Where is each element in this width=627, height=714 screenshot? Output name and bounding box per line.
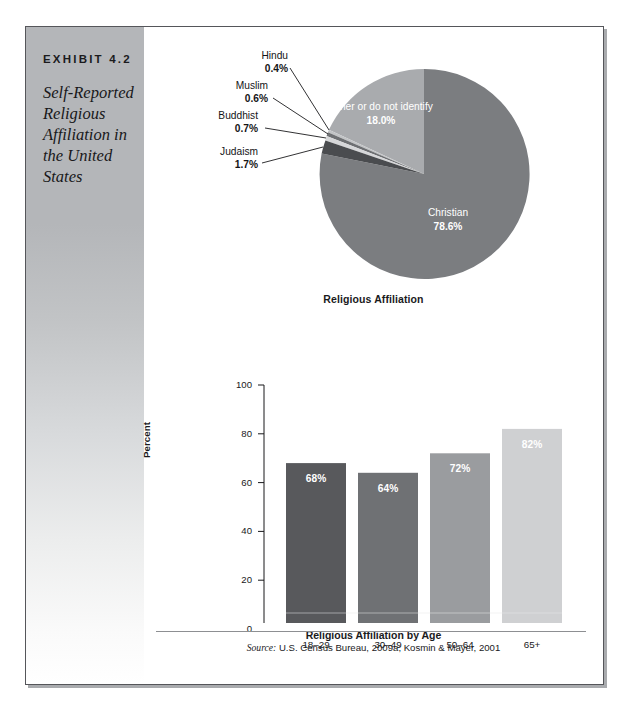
y-axis-ticks: [258, 385, 264, 623]
bar-value-30-49: 64%: [358, 483, 418, 494]
pie-callout-buddhist: Buddhist 0.7%: [154, 109, 258, 135]
y-tick-label-40: 40: [218, 525, 252, 536]
bar-series: [286, 429, 562, 623]
pie-leader-lines: [262, 68, 329, 163]
pie-chart-caption: Religious Affiliation: [144, 293, 603, 305]
y-tick-label-20: 20: [218, 574, 252, 585]
exhibit-page: EXHIBIT 4.2 Self-Reported Religious Affi…: [0, 0, 627, 714]
pie-callout-judaism: Judaism 1.7%: [154, 145, 258, 171]
bar-65-plus: [502, 429, 562, 623]
source-prefix: Source:: [247, 642, 276, 653]
y-tick-label-80: 80: [218, 428, 252, 439]
source-note: Source: U.S. Census Bureau, 2009a; Kosmi…: [144, 642, 603, 653]
bar-chart: Percent 100 80 60 40 20 0 68% 64% 72% 82…: [144, 323, 603, 653]
y-tick-label-60: 60: [218, 477, 252, 488]
exhibit-content: Other or do not identify 18.0% Christian…: [144, 27, 603, 684]
leader-line-judaism: [262, 147, 323, 163]
bar-30-49: [358, 473, 418, 623]
source-text: U.S. Census Bureau, 2009a; Kosmin & Maye…: [276, 642, 500, 653]
pie-callout-muslim: Muslim 0.6%: [164, 79, 268, 105]
pie-chart: Other or do not identify 18.0% Christian…: [144, 27, 603, 317]
leader-line-buddhist: [265, 128, 326, 138]
source-divider: [156, 631, 586, 632]
bar-50-64: [430, 453, 490, 623]
pie-callout-hindu: Hindu 0.4%: [184, 49, 288, 75]
pie-label-christian: Christian 78.6%: [400, 206, 496, 233]
bar-18-29: [286, 463, 346, 623]
exhibit-sidebar: EXHIBIT 4.2 Self-Reported Religious Affi…: [26, 27, 144, 684]
y-tick-label-100: 100: [218, 379, 252, 390]
bar-value-18-29: 68%: [286, 473, 346, 484]
bar-value-65-plus: 82%: [502, 439, 562, 450]
bar-value-50-64: 72%: [430, 463, 490, 474]
leader-line-hindu: [290, 68, 329, 130]
exhibit-number: EXHIBIT 4.2: [43, 53, 132, 65]
exhibit-panel: EXHIBIT 4.2 Self-Reported Religious Affi…: [25, 26, 604, 685]
exhibit-title: Self-Reported Religious Affiliation in t…: [43, 82, 139, 187]
bar-chart-y-axis-title: Percent: [141, 422, 152, 458]
pie-label-other: Other or do not identify 18.0%: [329, 100, 433, 127]
bar-chart-svg: [144, 323, 603, 623]
